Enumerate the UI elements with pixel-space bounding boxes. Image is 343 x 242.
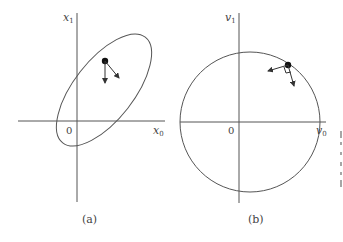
x1-axis-label: x1 bbox=[63, 11, 74, 25]
panel-b: v1 v0 0 (b) bbox=[180, 11, 327, 226]
x0-axis-label: x0 bbox=[153, 124, 164, 138]
vector-down-right bbox=[105, 61, 119, 78]
figure: x1 x0 0 (a) v1 v0 0 (b) bbox=[0, 0, 343, 242]
origin-label-a: 0 bbox=[66, 125, 72, 136]
caption-a: (a) bbox=[82, 213, 97, 226]
ellipse-curve bbox=[39, 19, 169, 162]
vector-down bbox=[288, 65, 294, 86]
origin-label-b: 0 bbox=[228, 125, 234, 136]
caption-b: (b) bbox=[248, 213, 264, 226]
v1-axis-label: v1 bbox=[225, 11, 236, 25]
v0-axis-label: v0 bbox=[316, 124, 327, 138]
panel-a: x1 x0 0 (a) bbox=[18, 11, 169, 226]
